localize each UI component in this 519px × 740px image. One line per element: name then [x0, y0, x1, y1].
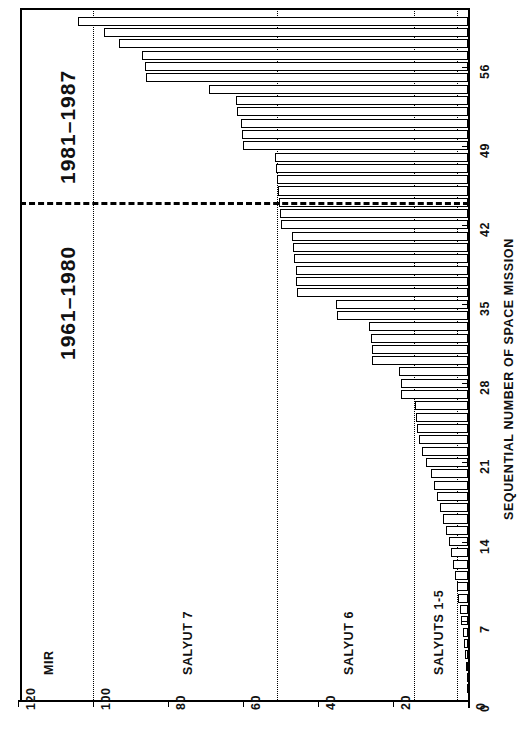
- bar: [276, 164, 468, 173]
- x-tick: [318, 700, 319, 707]
- bar: [453, 560, 468, 569]
- bar: [236, 96, 468, 105]
- x-tick-label: 40: [324, 695, 338, 710]
- bar: [369, 322, 468, 331]
- bar: [440, 503, 468, 512]
- era-label: 1961–1980: [56, 246, 80, 360]
- bar: [419, 435, 468, 444]
- y-tick: [462, 67, 469, 68]
- bar: [241, 119, 468, 128]
- era-label: 1981–1987: [56, 70, 80, 184]
- x-tick-label: 100: [99, 688, 113, 710]
- bar: [372, 356, 468, 365]
- bar: [371, 334, 468, 343]
- bar: [467, 673, 469, 682]
- era-divider-line: [20, 202, 469, 205]
- bar: [401, 390, 468, 399]
- x-tick: [18, 700, 19, 707]
- y-tick-label: 21: [478, 460, 492, 475]
- y-tick: [462, 542, 469, 543]
- x-tick-label: 80: [174, 695, 188, 710]
- station-label: SALYUT 7: [181, 611, 195, 675]
- bar: [417, 424, 468, 433]
- bar: [415, 401, 468, 410]
- mission-number-axis-line: [468, 8, 470, 708]
- x-tick: [468, 700, 469, 707]
- bar: [242, 130, 468, 139]
- y-tick: [462, 700, 469, 701]
- bar: [337, 311, 468, 320]
- bar: [237, 107, 468, 116]
- bar: [422, 447, 468, 456]
- bar: [431, 469, 468, 478]
- bar: [104, 28, 468, 37]
- bar: [142, 51, 468, 60]
- y-tick-label: 7: [478, 625, 492, 632]
- bar: [209, 85, 468, 94]
- y-axis-title: SEQUENTIAL NUMBER OF SPACE MISSION: [502, 238, 516, 520]
- bar: [145, 62, 468, 71]
- bar: [78, 17, 468, 26]
- bar: [434, 481, 468, 490]
- station-label: SALYUTS 1-5: [432, 590, 446, 675]
- bar: [466, 662, 468, 671]
- bar: [460, 605, 468, 614]
- bar: [451, 548, 468, 557]
- y-tick-label: 56: [478, 64, 492, 79]
- station-label: MIR: [42, 650, 56, 675]
- bar: [146, 73, 468, 82]
- bar: [437, 492, 468, 501]
- bar: [446, 526, 468, 535]
- x-tick: [168, 700, 169, 707]
- y-tick-label: 14: [478, 539, 492, 554]
- x-tick: [243, 700, 244, 707]
- y-tick: [462, 621, 469, 622]
- bar: [399, 367, 468, 376]
- bar: [457, 582, 468, 591]
- y-tick: [462, 146, 469, 147]
- y-tick: [462, 225, 469, 226]
- bar: [275, 153, 468, 162]
- bar: [465, 650, 468, 659]
- bar: [372, 345, 468, 354]
- bar: [280, 209, 468, 218]
- bar: [464, 639, 468, 648]
- y-tick-label: 0: [478, 705, 492, 712]
- bar: [281, 220, 468, 229]
- y-tick-label: 35: [478, 301, 492, 316]
- y-tick-label: 28: [478, 380, 492, 395]
- bar: [455, 571, 468, 580]
- bar: [294, 254, 468, 263]
- bar: [296, 277, 468, 286]
- bar: [458, 594, 468, 603]
- x-tick-label: 120: [24, 688, 38, 710]
- bar: [336, 300, 468, 309]
- x-tick-label: 60: [249, 695, 263, 710]
- y-tick: [462, 304, 469, 305]
- bar: [293, 243, 468, 252]
- y-tick: [462, 462, 469, 463]
- bar: [467, 684, 469, 693]
- reference-line-100: [93, 8, 94, 700]
- bar: [278, 186, 468, 195]
- bar: [292, 232, 468, 241]
- chart-canvas: 0204060801001200714212835424956 SALYUTS …: [0, 0, 519, 740]
- bar: [297, 288, 468, 297]
- x-tick-label: 20: [399, 695, 413, 710]
- bar: [243, 141, 468, 150]
- bar: [416, 413, 468, 422]
- bar: [463, 628, 468, 637]
- bar: [443, 514, 468, 523]
- x-tick: [393, 700, 394, 707]
- station-label: SALYUT 6: [342, 611, 356, 675]
- y-tick: [462, 383, 469, 384]
- bar: [277, 175, 468, 184]
- y-tick-label: 42: [478, 222, 492, 237]
- bar: [119, 39, 468, 48]
- bar: [401, 379, 468, 388]
- bar: [296, 266, 468, 275]
- x-tick: [93, 700, 94, 707]
- y-tick-label: 49: [478, 143, 492, 158]
